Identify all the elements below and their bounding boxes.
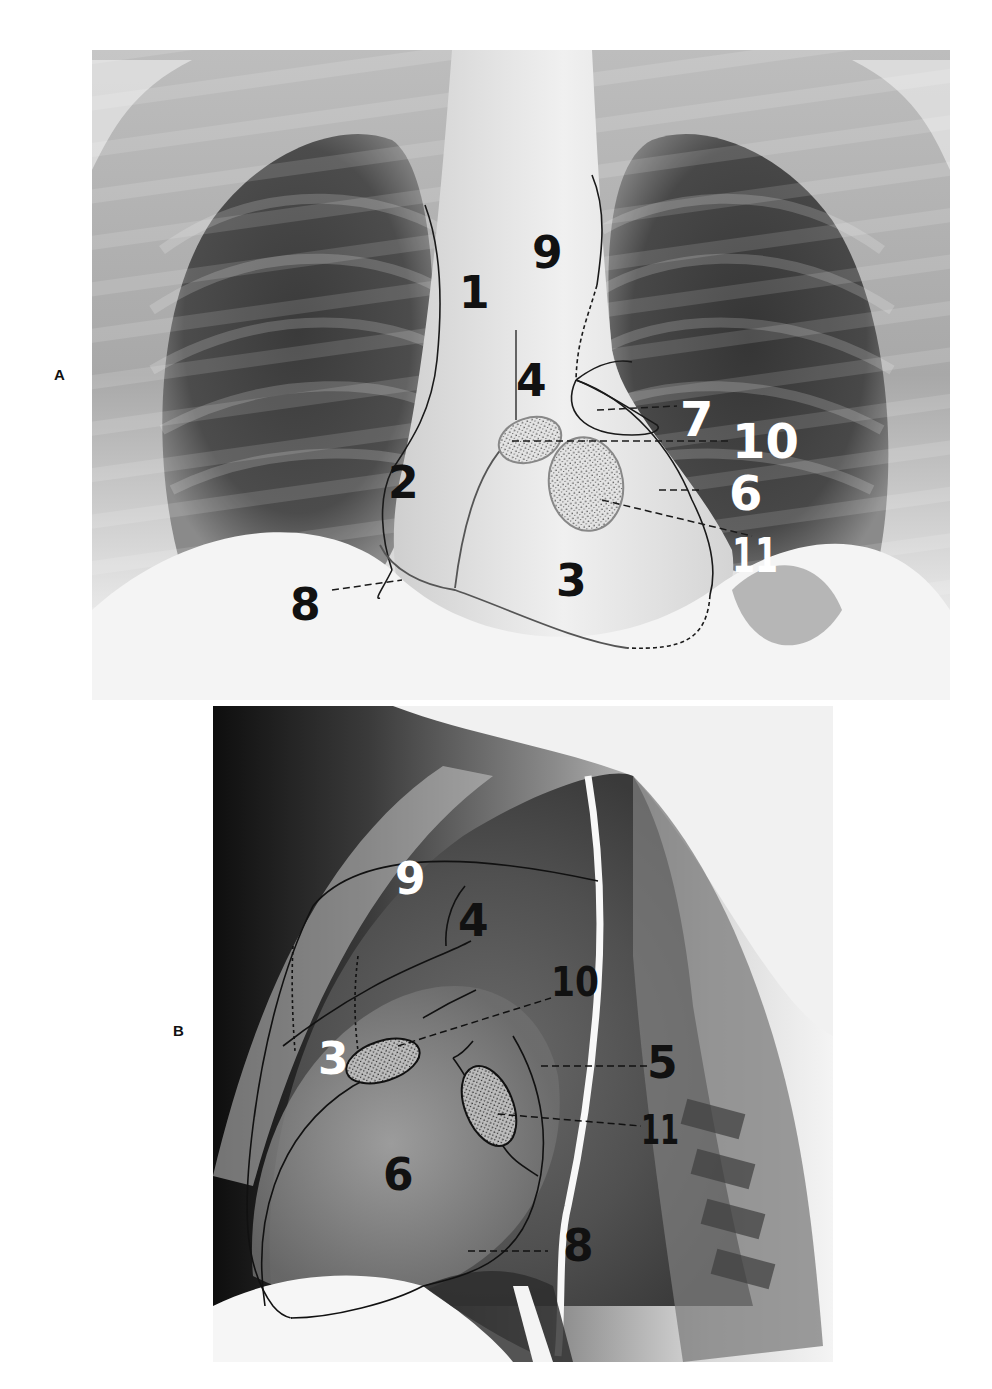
label-a-8: 8	[290, 579, 321, 630]
label-b-5: 5	[647, 1037, 678, 1088]
label-b-6: 6	[383, 1149, 414, 1200]
label-b-4: 4	[458, 895, 489, 946]
panel-letter-b: B	[173, 1022, 184, 1039]
label-a-2: 2	[388, 457, 419, 508]
label-a-1: 1	[459, 267, 490, 318]
label-a-3: 3	[556, 555, 587, 606]
label-a-9: 9	[532, 227, 563, 278]
panel-letter-a: A	[54, 366, 65, 383]
label-b-8: 8	[563, 1220, 594, 1271]
label-b-11: 11	[641, 1107, 679, 1153]
xray-panel-a: 1 2 3 4 9 8 7 10 6 11	[92, 50, 950, 700]
label-b-9: 9	[395, 853, 426, 904]
label-a-7: 7	[680, 391, 713, 447]
label-b-10: 10	[551, 959, 599, 1005]
label-a-11: 11	[732, 527, 778, 583]
xray-panel-b: 9 3 4 6 5 8 10 11	[213, 706, 833, 1362]
label-b-3: 3	[318, 1033, 349, 1084]
label-a-10: 10	[732, 413, 799, 469]
label-a-6: 6	[729, 465, 762, 521]
label-a-4: 4	[516, 355, 547, 406]
